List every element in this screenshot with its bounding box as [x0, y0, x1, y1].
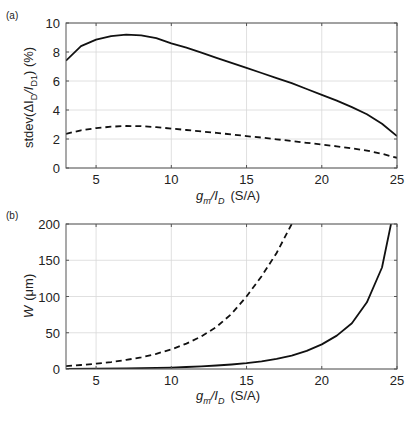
y-axis-label-a: stdev(ΔID/ID1) (%)	[21, 47, 39, 148]
x-axis-label-b: gm/ID(S/A)	[196, 388, 260, 406]
x-tick-label: 20	[315, 172, 329, 187]
ylabel-a-prefix: stdev(ΔI	[21, 100, 36, 148]
x-tick-label: 25	[390, 172, 404, 187]
y-tick-label: 0	[53, 362, 60, 377]
series-dashed	[66, 126, 397, 158]
y-axis-label-b: W(μm)	[21, 274, 36, 318]
x-tick-label: 10	[164, 172, 178, 187]
x-tick-label: 5	[92, 373, 99, 388]
x-tick-label: 5	[92, 172, 99, 187]
axes-box	[66, 23, 397, 168]
plot-b: 510152025050100150200	[38, 217, 404, 388]
y-tick-label: 200	[38, 217, 60, 232]
y-tick-label: 150	[38, 253, 60, 268]
figure: 5101520250246810 510152025050100150200 (…	[0, 0, 420, 425]
y-tick-label: 50	[46, 326, 60, 341]
xlabel-sub-d: D	[218, 396, 225, 406]
plot-a: 5101520250246810	[46, 16, 405, 187]
y-tick-label: 10	[46, 16, 60, 31]
x-tick-label: 15	[239, 373, 253, 388]
y-tick-label: 8	[53, 45, 60, 60]
y-tick-label: 100	[38, 290, 60, 305]
x-tick-label: 10	[164, 373, 178, 388]
xlabel-unit: (S/A)	[230, 188, 260, 203]
y-tick-label: 4	[53, 103, 60, 118]
x-axis-label-a: gm/ID(S/A)	[196, 188, 260, 206]
ylabel-a-suffix: ) (%)	[21, 47, 36, 75]
x-tick-label: 20	[315, 373, 329, 388]
x-tick-label: 25	[390, 373, 404, 388]
y-tick-label: 0	[53, 161, 60, 176]
ylabel-a-sub-d1: D1	[29, 75, 39, 87]
xlabel-unit: (S/A)	[230, 388, 260, 403]
panel-label-b: (b)	[6, 210, 18, 221]
ylabel-b-unit: (μm)	[21, 274, 36, 301]
y-tick-label: 2	[53, 132, 60, 147]
xlabel-sub-d: D	[218, 196, 225, 206]
y-tick-label: 6	[53, 74, 60, 89]
series-solid	[66, 35, 397, 137]
ylabel-b-w: W	[21, 304, 36, 318]
panel-label-a: (a)	[6, 10, 18, 21]
series-dashed	[66, 224, 292, 366]
x-tick-label: 15	[239, 172, 253, 187]
